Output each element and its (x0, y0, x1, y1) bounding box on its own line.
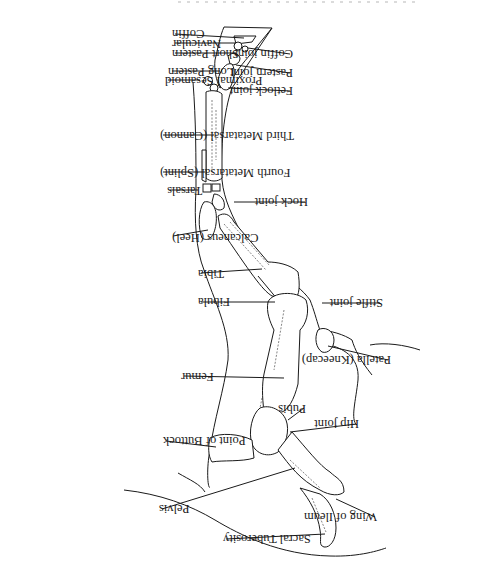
label-fetlock-joint: Fetlock joint (229, 84, 293, 98)
label-wing-of-ileum: Wing of Ileum (304, 510, 377, 524)
label-point-of-buttock: Point of Buttock (162, 434, 245, 448)
label-tibia: Tibia (198, 267, 224, 281)
label-sacral-tuberosity: Sacral Tuberosity (222, 532, 311, 546)
label-hip-joint: Hip joint (314, 417, 359, 431)
label-patella: Patella (Kneecap) (302, 353, 391, 367)
label-pastern-joint: Pastern joint (230, 66, 293, 80)
label-pubis: Pubis (278, 402, 306, 416)
label-short-pastern: Short Pastern (171, 47, 239, 61)
bones (199, 36, 344, 547)
label-stifle-joint: Stifle joint (329, 296, 383, 310)
label-calcaneus: Calcaneus (Heel) (172, 231, 258, 245)
label-femur: Femur (180, 370, 213, 384)
label-fourth-metatarsal: Fourth Metatarsal (Splint) (160, 166, 291, 180)
label-hock-joint: Hock joint (254, 195, 308, 209)
label-tarsals: Tarsals (167, 184, 202, 198)
label-fibula: Fibula (198, 295, 230, 309)
label-coffin-joint: Coffin joint (234, 47, 293, 61)
label-third-metatarsal: Third Metatarsal (Cannon) (160, 129, 294, 143)
hind-limb-diagram: Coffin Navicular Short Pastern Long Past… (0, 0, 504, 576)
label-pelvis: Pelvis (159, 502, 190, 516)
